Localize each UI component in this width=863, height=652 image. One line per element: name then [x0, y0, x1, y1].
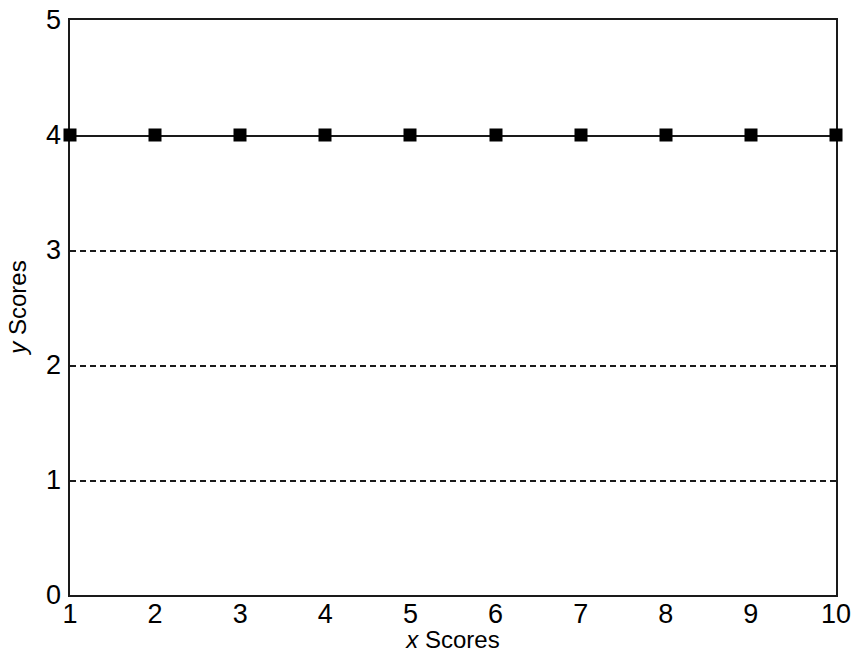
gridline-y-1 — [70, 480, 836, 482]
y-tick-label-0: 0 — [46, 582, 61, 609]
x-tick-label-8: 8 — [658, 601, 673, 628]
x-tick-label-9: 9 — [743, 601, 758, 628]
x-axis-title-symbol: x — [406, 626, 418, 652]
x-tick-label-1: 1 — [62, 601, 77, 628]
x-tick-label-10: 10 — [821, 601, 851, 628]
data-point-marker — [319, 129, 332, 142]
x-tick-label-2: 2 — [148, 601, 163, 628]
gridline-y-2 — [70, 365, 836, 367]
y-tick-label-1: 1 — [46, 467, 61, 494]
series-line — [70, 135, 836, 137]
data-point-marker — [830, 129, 843, 142]
y-tick-label-2: 2 — [46, 352, 61, 379]
data-point-marker — [489, 129, 502, 142]
x-tick-label-5: 5 — [403, 601, 418, 628]
x-tick-label-6: 6 — [488, 601, 503, 628]
data-point-marker — [744, 129, 757, 142]
x-tick-label-7: 7 — [573, 601, 588, 628]
x-tick-label-4: 4 — [318, 601, 333, 628]
data-point-marker — [404, 129, 417, 142]
x-tick-label-3: 3 — [233, 601, 248, 628]
x-axis-title: x Scores — [68, 628, 838, 652]
y-tick-label-5: 5 — [46, 7, 61, 34]
data-point-marker — [574, 129, 587, 142]
y-axis-title-symbol: y — [4, 342, 31, 354]
y-axis-title: y Scores — [1, 18, 35, 597]
data-point-marker — [64, 129, 77, 142]
data-point-marker — [659, 129, 672, 142]
data-point-marker — [149, 129, 162, 142]
gridline-y-3 — [70, 250, 836, 252]
y-axis-title-text: Scores — [4, 260, 31, 341]
plot-area: 5 4 3 2 1 0 1 2 3 4 5 6 7 8 9 10 — [68, 18, 838, 597]
y-tick-label-4: 4 — [46, 122, 61, 149]
line-chart: 5 4 3 2 1 0 1 2 3 4 5 6 7 8 9 10 x Score… — [0, 0, 863, 652]
y-tick-label-3: 3 — [46, 237, 61, 264]
x-axis-title-text: Scores — [418, 626, 499, 652]
data-point-marker — [234, 129, 247, 142]
